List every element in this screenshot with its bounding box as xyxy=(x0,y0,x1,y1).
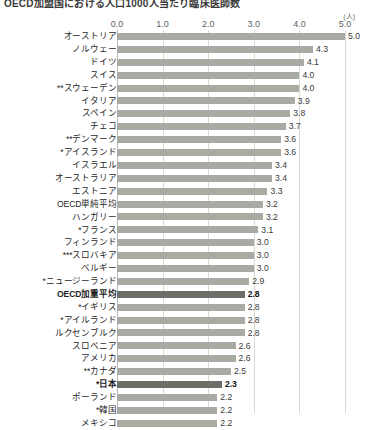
bar-value-label: 2.2 xyxy=(220,393,232,402)
category-label: *ニュージーランド xyxy=(43,277,117,286)
bar-value-label: 5.0 xyxy=(348,32,360,41)
category-label: *フランス xyxy=(78,226,117,235)
chart-row: **カナダ2.5 xyxy=(0,365,371,378)
page-title: OECD加盟国における人口1000人当たり臨床医師数 xyxy=(4,0,240,9)
category-label: *イギリス xyxy=(78,303,117,312)
chart-row: オーストリア5.0 xyxy=(0,30,371,43)
bar xyxy=(117,342,236,349)
bar xyxy=(117,407,217,414)
bar-value-label: 4.0 xyxy=(302,84,314,93)
bar-value-label: 2.6 xyxy=(239,354,251,363)
category-label: フィンランド xyxy=(64,238,117,247)
bar xyxy=(117,97,295,104)
chart-row: エストニア3.3 xyxy=(0,185,371,198)
bar xyxy=(117,420,217,427)
chart-row: **デンマーク3.6 xyxy=(0,133,371,146)
bar xyxy=(117,394,217,401)
bar-value-label: 2.3 xyxy=(225,380,237,389)
bar-value-label: 2.8 xyxy=(248,316,260,325)
bar xyxy=(117,123,286,130)
bar xyxy=(117,239,254,246)
bar-value-label: 3.4 xyxy=(275,174,287,183)
bar xyxy=(117,381,222,388)
bar xyxy=(117,46,313,53)
chart-row: *イギリス2.8 xyxy=(0,301,371,314)
category-label: *韓国 xyxy=(96,406,117,415)
category-label: *日本 xyxy=(96,380,117,389)
x-tick-5-0: 5.0 xyxy=(339,19,352,29)
chart-row: ノルウェー4.3 xyxy=(0,43,371,56)
category-label: **カナダ xyxy=(84,367,117,376)
category-label: ドイツ xyxy=(90,58,117,67)
chart-row: *ニュージーランド2.9 xyxy=(0,275,371,288)
bar xyxy=(117,304,245,311)
bar-value-label: 3.7 xyxy=(289,122,301,131)
chart-row: OECD単純平均3.2 xyxy=(0,198,371,211)
bar xyxy=(117,33,345,40)
chart-row: スロベニア2.6 xyxy=(0,339,371,352)
bar-value-label: 3.0 xyxy=(257,251,269,260)
category-label: *アイルランド xyxy=(60,316,117,325)
category-label: エストニア xyxy=(72,187,117,196)
bar xyxy=(117,278,249,285)
category-label: アメリカ xyxy=(81,354,117,363)
category-label: ハンガリー xyxy=(72,213,117,222)
bar xyxy=(117,329,245,336)
bar xyxy=(117,188,267,195)
bar xyxy=(117,72,299,79)
bar-value-label: 3.2 xyxy=(266,213,278,222)
category-label: ルクセンブルク xyxy=(55,329,117,338)
category-label: OECD単純平均 xyxy=(57,200,117,209)
chart-row: *韓国2.2 xyxy=(0,404,371,417)
bar-value-label: 3.6 xyxy=(284,135,296,144)
chart-row: **スウェーデン4.0 xyxy=(0,82,371,95)
bar xyxy=(117,175,272,182)
bar-value-label: 3.3 xyxy=(270,187,282,196)
bar xyxy=(117,85,299,92)
bar-value-label: 4.1 xyxy=(307,58,319,67)
chart-title-strip: OECD加盟国における人口1000人当たり臨床医師数 xyxy=(0,0,371,9)
bar-value-label: 3.6 xyxy=(284,148,296,157)
x-tick-0-0: 0.0 xyxy=(111,19,124,29)
bar-value-label: 2.8 xyxy=(248,329,260,338)
category-label: **スウェーデン xyxy=(57,84,117,93)
bars-area: オーストリア5.0ノルウェー4.3ドイツ4.1スイス4.0**スウェーデン4.0… xyxy=(0,30,371,420)
category-label: *アイスランド xyxy=(60,148,117,157)
bar xyxy=(117,317,245,324)
bar-value-label: 3.0 xyxy=(257,238,269,247)
chart-row: スペイン3.8 xyxy=(0,107,371,120)
x-tick-4-0: 4.0 xyxy=(293,19,306,29)
chart-row: チェコ3.7 xyxy=(0,120,371,133)
bar xyxy=(117,355,236,362)
chart-row: ドイツ4.1 xyxy=(0,56,371,69)
chart-row: スイス4.0 xyxy=(0,69,371,82)
category-label: ベルギー xyxy=(81,264,117,273)
bar xyxy=(117,110,290,117)
x-tick-2-0: 2.0 xyxy=(202,19,215,29)
bar-value-label: 2.2 xyxy=(220,419,232,428)
bar xyxy=(117,265,254,272)
category-label: ポーランド xyxy=(72,393,117,402)
chart-row: オーストラリア3.4 xyxy=(0,172,371,185)
category-label: メキシコ xyxy=(81,419,117,428)
bar xyxy=(117,136,281,143)
bar-value-label: 2.8 xyxy=(248,303,260,312)
bar-value-label: 2.9 xyxy=(252,277,264,286)
chart-row: *フランス3.1 xyxy=(0,223,371,236)
chart-row: メキシコ2.2 xyxy=(0,417,371,430)
category-label: ***スロバキア xyxy=(63,251,117,260)
category-label: チェコ xyxy=(90,122,117,131)
bar-value-label: 2.2 xyxy=(220,406,232,415)
chart-row: ルクセンブルク2.8 xyxy=(0,326,371,339)
bar-value-label: 3.1 xyxy=(261,226,273,235)
category-label: **デンマーク xyxy=(66,135,117,144)
chart-row: OECD加重平均2.8 xyxy=(0,288,371,301)
chart-row: アメリカ2.6 xyxy=(0,352,371,365)
chart-row: ベルギー3.0 xyxy=(0,262,371,275)
bar-value-label: 3.9 xyxy=(298,97,310,106)
category-label: ノルウェー xyxy=(72,45,117,54)
bar xyxy=(117,59,304,66)
x-tick-1-0: 1.0 xyxy=(156,19,169,29)
bar xyxy=(117,201,263,208)
